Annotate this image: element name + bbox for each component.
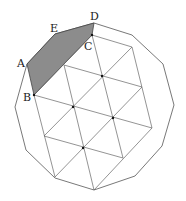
- grid-line: [55, 87, 142, 177]
- vertex-label-a: A: [16, 57, 26, 70]
- grid-point: [82, 147, 84, 149]
- grid-line: [92, 35, 132, 47]
- vertex-label-c: C: [84, 40, 92, 53]
- vertex-label-d: D: [90, 10, 99, 23]
- vertex-label-b: B: [23, 91, 31, 104]
- outer-dodecagon: [15, 23, 174, 190]
- grid-line: [92, 35, 123, 158]
- grid-point: [91, 34, 93, 36]
- grid-line: [94, 128, 152, 190]
- grid-point: [112, 117, 114, 119]
- grid-line: [132, 47, 152, 128]
- grid-line: [34, 95, 152, 128]
- geometry-diagram: ABCDE: [0, 0, 186, 201]
- grid-point: [33, 94, 35, 96]
- grid-point: [72, 106, 74, 108]
- grid-point: [101, 75, 103, 77]
- grid-line: [64, 65, 94, 190]
- vertex-label-e: E: [50, 22, 58, 35]
- shaded-pentagon-abcde: [27, 23, 94, 95]
- diagram-container: ABCDE: [0, 0, 186, 201]
